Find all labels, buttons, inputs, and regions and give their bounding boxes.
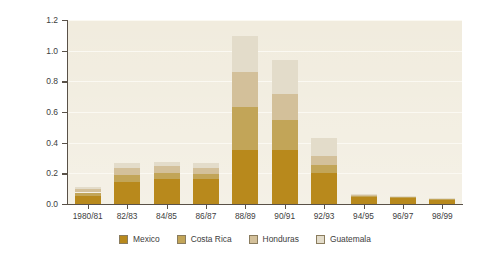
bar-segment[interactable]: [114, 182, 140, 204]
legend-swatch-icon: [119, 235, 128, 244]
bar-segment[interactable]: [429, 199, 455, 200]
bar-segment[interactable]: [193, 179, 219, 204]
bar-segment[interactable]: [154, 179, 180, 204]
bar-segment[interactable]: [154, 173, 180, 178]
bar-group[interactable]: [114, 20, 140, 204]
x-tick-mark: [324, 205, 325, 209]
bar-segment[interactable]: [114, 175, 140, 182]
y-axis-line: [67, 20, 68, 205]
bar-segment[interactable]: [351, 196, 377, 198]
y-tick-label: 1.2: [32, 15, 58, 25]
bar-segment[interactable]: [311, 138, 337, 156]
x-tick-label: 94/95: [353, 211, 374, 221]
x-tick-label: 82/83: [117, 211, 138, 221]
x-tick-mark: [88, 205, 89, 209]
bar-segment[interactable]: [232, 150, 258, 204]
bar-segment[interactable]: [429, 198, 455, 199]
legend-label: Honduras: [263, 234, 299, 244]
bar-segment[interactable]: [193, 174, 219, 179]
x-tick-mark: [167, 205, 168, 209]
bar-group[interactable]: [429, 20, 455, 204]
legend-item[interactable]: Guatemala: [316, 234, 371, 244]
bar-segment[interactable]: [232, 36, 258, 72]
x-tick-label: 96/97: [393, 211, 414, 221]
bar-segment[interactable]: [272, 60, 298, 94]
y-tick-mark: [62, 81, 67, 82]
bar-segment[interactable]: [351, 194, 377, 195]
bar-segment[interactable]: [351, 197, 377, 204]
y-tick-mark: [62, 112, 67, 113]
bar-group[interactable]: [75, 20, 101, 204]
bar-segment[interactable]: [193, 168, 219, 174]
bar-segment[interactable]: [232, 72, 258, 107]
y-tick-mark: [62, 173, 67, 174]
y-tick-label: 0.4: [32, 138, 58, 148]
bar-segment[interactable]: [311, 156, 337, 165]
legend-label: Guatemala: [330, 234, 371, 244]
bar-segment[interactable]: [154, 162, 180, 167]
bar-segment[interactable]: [75, 193, 101, 196]
bar-segment[interactable]: [351, 195, 377, 196]
x-tick-label: 84/85: [156, 211, 177, 221]
legend-item[interactable]: Mexico: [119, 234, 160, 244]
legend-swatch-icon: [316, 235, 325, 244]
x-tick-label: 88/89: [235, 211, 256, 221]
y-tick-mark: [62, 51, 67, 52]
bar-group[interactable]: [272, 20, 298, 204]
x-tick-mark: [245, 205, 246, 209]
stacked-bar-chart: Millions 0.00.20.40.60.81.01.2 1980/8182…: [0, 0, 490, 265]
plot-area: [68, 20, 462, 204]
bar-segment[interactable]: [193, 163, 219, 168]
bar-group[interactable]: [154, 20, 180, 204]
legend-label: Costa Rica: [191, 234, 232, 244]
x-tick-mark: [364, 205, 365, 209]
bar-segment[interactable]: [75, 189, 101, 192]
bar-segment[interactable]: [114, 163, 140, 168]
x-tick-mark: [127, 205, 128, 209]
bar-segment[interactable]: [75, 187, 101, 189]
x-tick-label: 98/99: [432, 211, 453, 221]
y-tick-label: 1.0: [32, 46, 58, 56]
chart-legend: MexicoCosta RicaHondurasGuatemala: [0, 234, 490, 244]
x-tick-label: 1980/81: [73, 211, 103, 221]
y-tick-mark: [62, 20, 67, 21]
legend-swatch-icon: [177, 235, 186, 244]
bar-segment[interactable]: [232, 107, 258, 150]
bar-segment[interactable]: [311, 173, 337, 204]
bar-segment[interactable]: [311, 165, 337, 173]
x-tick-mark: [403, 205, 404, 209]
bar-segment[interactable]: [114, 168, 140, 175]
legend-swatch-icon: [249, 235, 258, 244]
bar-segment[interactable]: [272, 94, 298, 120]
legend-item[interactable]: Honduras: [249, 234, 299, 244]
y-tick-mark: [62, 204, 67, 205]
bar-group[interactable]: [390, 20, 416, 204]
y-tick-label: 0.2: [32, 168, 58, 178]
bar-segment[interactable]: [390, 196, 416, 197]
bar-segment[interactable]: [272, 120, 298, 151]
bar-segment[interactable]: [75, 196, 101, 204]
x-tick-mark: [206, 205, 207, 209]
y-tick-label: 0.6: [32, 107, 58, 117]
bar-segment[interactable]: [272, 150, 298, 204]
legend-item[interactable]: Costa Rica: [177, 234, 232, 244]
bar-segment[interactable]: [154, 166, 180, 173]
bar-group[interactable]: [193, 20, 219, 204]
x-tick-label: 86/87: [196, 211, 217, 221]
x-tick-mark: [285, 205, 286, 209]
y-tick-label: 0.0: [32, 199, 58, 209]
bar-group[interactable]: [311, 20, 337, 204]
bar-group[interactable]: [351, 20, 377, 204]
x-tick-mark: [442, 205, 443, 209]
y-tick-label: 0.8: [32, 76, 58, 86]
x-tick-label: 92/93: [314, 211, 335, 221]
bar-group[interactable]: [232, 20, 258, 204]
y-tick-mark: [62, 143, 67, 144]
legend-label: Mexico: [133, 234, 160, 244]
x-tick-label: 90/91: [274, 211, 295, 221]
bar-segment[interactable]: [390, 197, 416, 198]
